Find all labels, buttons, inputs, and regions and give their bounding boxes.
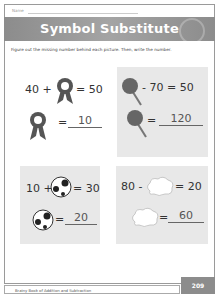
page-title: Symbol Substitute	[4, 21, 215, 36]
problem-cloud: 80 - = 20 = 60	[116, 166, 208, 244]
ribbon-award-icon	[28, 110, 48, 142]
cloud-icon	[130, 206, 160, 228]
page-number: 209	[181, 277, 215, 294]
answer-field[interactable]: 120	[159, 112, 203, 126]
equals-sign: =	[159, 211, 168, 224]
name-line[interactable]	[28, 13, 138, 14]
footer-bar: Brainy Book of Addition and Subtraction	[4, 285, 180, 294]
instructions: Figure out the missing number behind eac…	[11, 47, 171, 52]
answer-field[interactable]: 20	[65, 211, 97, 225]
soccer-ball-icon	[32, 209, 54, 231]
problem-ribbon: 40 + = 50 = 10	[18, 68, 104, 158]
equation-right: = 30	[73, 182, 100, 195]
answer-field[interactable]: 60	[168, 209, 204, 223]
equation-left: 10 +	[26, 182, 53, 195]
cloud-icon	[145, 175, 175, 197]
equation-left: 80 -	[121, 180, 142, 193]
equation-left: 40 +	[25, 83, 52, 96]
title-banner: Symbol Substitute	[4, 17, 215, 41]
lollipop-icon	[126, 109, 148, 139]
problem-soccer-ball: 10 + = 30 = 20	[20, 166, 100, 244]
equation-right: = 20	[175, 180, 202, 193]
ribbon-award-icon	[55, 76, 75, 106]
name-label: Name	[12, 8, 24, 13]
soccer-ball-icon	[50, 176, 72, 198]
lollipop-icon	[121, 77, 143, 107]
equation-right: - 70 = 50	[142, 81, 194, 94]
equals-sign: =	[147, 114, 156, 127]
book-title: Brainy Book of Addition and Subtraction	[15, 288, 91, 293]
footer: Brainy Book of Addition and Subtraction …	[4, 285, 215, 295]
equals-sign: =	[55, 213, 64, 226]
equals-sign: =	[58, 116, 67, 129]
problem-lollipop: - 70 = 50 = 120	[117, 67, 208, 157]
equation-right: = 50	[76, 83, 103, 96]
answer-field[interactable]: 10	[68, 114, 102, 128]
